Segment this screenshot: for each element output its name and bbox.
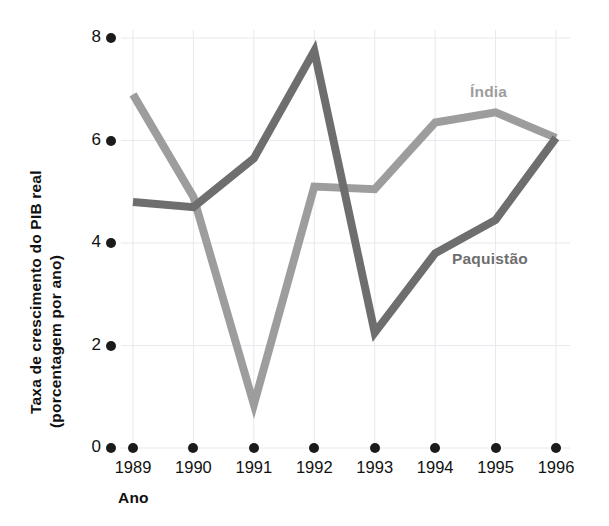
y-tick-label: 2 [77,335,101,355]
x-tick-label: 1990 [165,458,221,477]
x-tick-label: 1996 [528,458,584,477]
y-tick-label: 4 [77,232,101,252]
y-tick-dot [106,341,116,351]
x-tick-label: 1994 [407,458,463,477]
x-tick-label: 1991 [226,458,282,477]
series-label: Índia [470,83,507,101]
x-tick-label: 1989 [105,458,161,477]
x-tick-dot [551,443,561,453]
x-tick-label: 1992 [286,458,342,477]
y-tick-label: 6 [77,130,101,150]
y-tick-dot [106,33,116,43]
chart-root: Taxa de crescimento do PIB real (porcent… [0,0,609,526]
x-tick-label: 1995 [468,458,524,477]
y-tick-dot [106,443,116,453]
x-tick-dot [128,443,138,453]
x-tick-dot [249,443,259,453]
y-tick-dot [106,136,116,146]
x-tick-dot [370,443,380,453]
y-tick-dot [106,238,116,248]
x-tick-label: 1993 [347,458,403,477]
y-tick-label: 0 [77,437,101,457]
y-tick-label: 8 [77,27,101,47]
x-tick-dot [491,443,501,453]
series-label: Paquistão [452,250,528,268]
